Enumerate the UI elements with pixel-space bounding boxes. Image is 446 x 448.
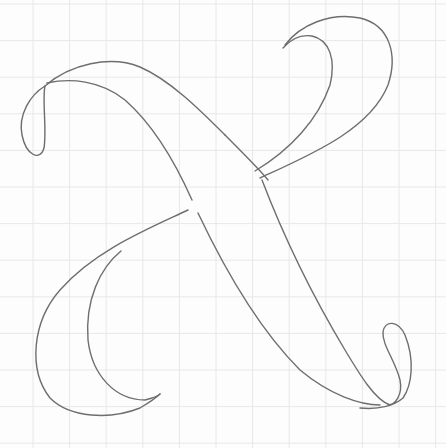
grid-lines (0, 0, 446, 448)
main-stroke-outer (225, 135, 268, 180)
bottom-left-curl-inner (88, 251, 160, 400)
top-left-loop-outer (45, 62, 225, 135)
graph-paper (0, 0, 446, 448)
bottom-right-loop (360, 323, 411, 408)
sketch-canvas (0, 0, 446, 448)
main-stroke-inner (47, 81, 192, 200)
crossbar-upper (36, 210, 188, 415)
